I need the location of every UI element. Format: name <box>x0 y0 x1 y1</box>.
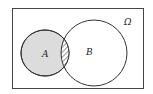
universe-label: Ω <box>123 17 132 27</box>
venn-diagram: A B Ω <box>0 0 153 94</box>
set-b-label: B <box>85 47 93 57</box>
set-a-label: A <box>41 49 49 59</box>
